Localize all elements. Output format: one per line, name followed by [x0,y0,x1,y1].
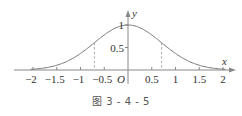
y-tick-label: 0.5 [110,42,124,54]
x-tick-label: −1.5 [45,73,65,85]
x-tick-label: −1 [73,73,85,85]
x-tick-label: 1 [173,73,179,85]
x-tick-label: 1.5 [192,73,206,85]
chart-canvas: −2−1.5−1−0.50.511.520.51xyO [0,0,242,92]
x-tick-label: 2 [220,73,226,85]
x-tick-label: 0.5 [145,73,159,85]
y-tick-label: 1 [119,19,125,31]
origin-label: O [117,73,125,85]
y-axis-label: y [131,7,137,19]
x-tick-label: −0.5 [92,73,112,85]
x-tick-label: −2 [25,73,37,85]
tick-labels: −2−1.5−1−0.50.511.520.51xyO [25,7,227,85]
y-axis-arrow-icon [126,10,131,17]
figure-caption: 图 3 - 4 - 5 [0,93,242,108]
x-axis-label: x [221,55,227,67]
x-axis-arrow-icon [229,68,236,73]
